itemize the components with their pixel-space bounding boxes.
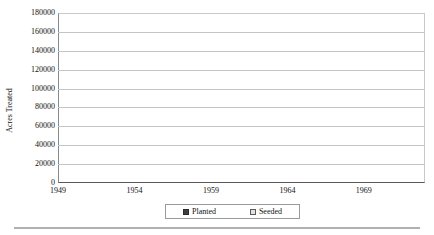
y-tick-label: 180000 — [1, 9, 55, 17]
filled-square-icon — [183, 209, 189, 215]
plot-frame — [58, 13, 425, 183]
open-square-icon — [250, 209, 256, 215]
plot-area — [58, 13, 425, 183]
gridline — [58, 107, 425, 108]
gridline — [58, 32, 425, 33]
gridline — [58, 145, 425, 146]
x-tick-label: 1964 — [279, 186, 295, 196]
legend-label-planted: Planted — [192, 208, 216, 216]
gridline — [58, 126, 425, 127]
chart-legend: Planted Seeded — [165, 204, 300, 219]
area-chart: Acres Treated 18000016000014000012000010… — [0, 8, 434, 220]
y-tick-label: 60000 — [1, 122, 55, 130]
legend-item-seeded[interactable]: Seeded — [250, 208, 282, 216]
gridline — [58, 51, 425, 52]
y-tick-label: 20000 — [1, 160, 55, 168]
y-tick-label: 100000 — [1, 85, 55, 93]
legend-label-seeded: Seeded — [259, 208, 282, 216]
gridline — [58, 89, 425, 90]
gridline — [58, 164, 425, 165]
x-tick-label: 1949 — [50, 186, 66, 196]
x-tick-label: 1959 — [203, 186, 219, 196]
y-tick-label: 40000 — [1, 141, 55, 149]
bottom-divider — [14, 227, 420, 229]
y-tick-label: 120000 — [1, 66, 55, 74]
y-tick-label: 160000 — [1, 28, 55, 36]
y-tick-label: 140000 — [1, 47, 55, 55]
x-tick-label: 1954 — [126, 186, 142, 196]
x-tick-label: 1969 — [356, 186, 372, 196]
gridline — [58, 70, 425, 71]
y-tick-label: 80000 — [1, 103, 55, 111]
chart-page: Acres Treated 18000016000014000012000010… — [0, 0, 434, 235]
legend-item-planted[interactable]: Planted — [183, 208, 216, 216]
x-axis-ticks: 19491954195919641969 — [58, 186, 425, 198]
y-tick-label: 0 — [1, 179, 55, 187]
y-axis-ticks: 1800001600001400001200001000008000060000… — [0, 13, 55, 183]
